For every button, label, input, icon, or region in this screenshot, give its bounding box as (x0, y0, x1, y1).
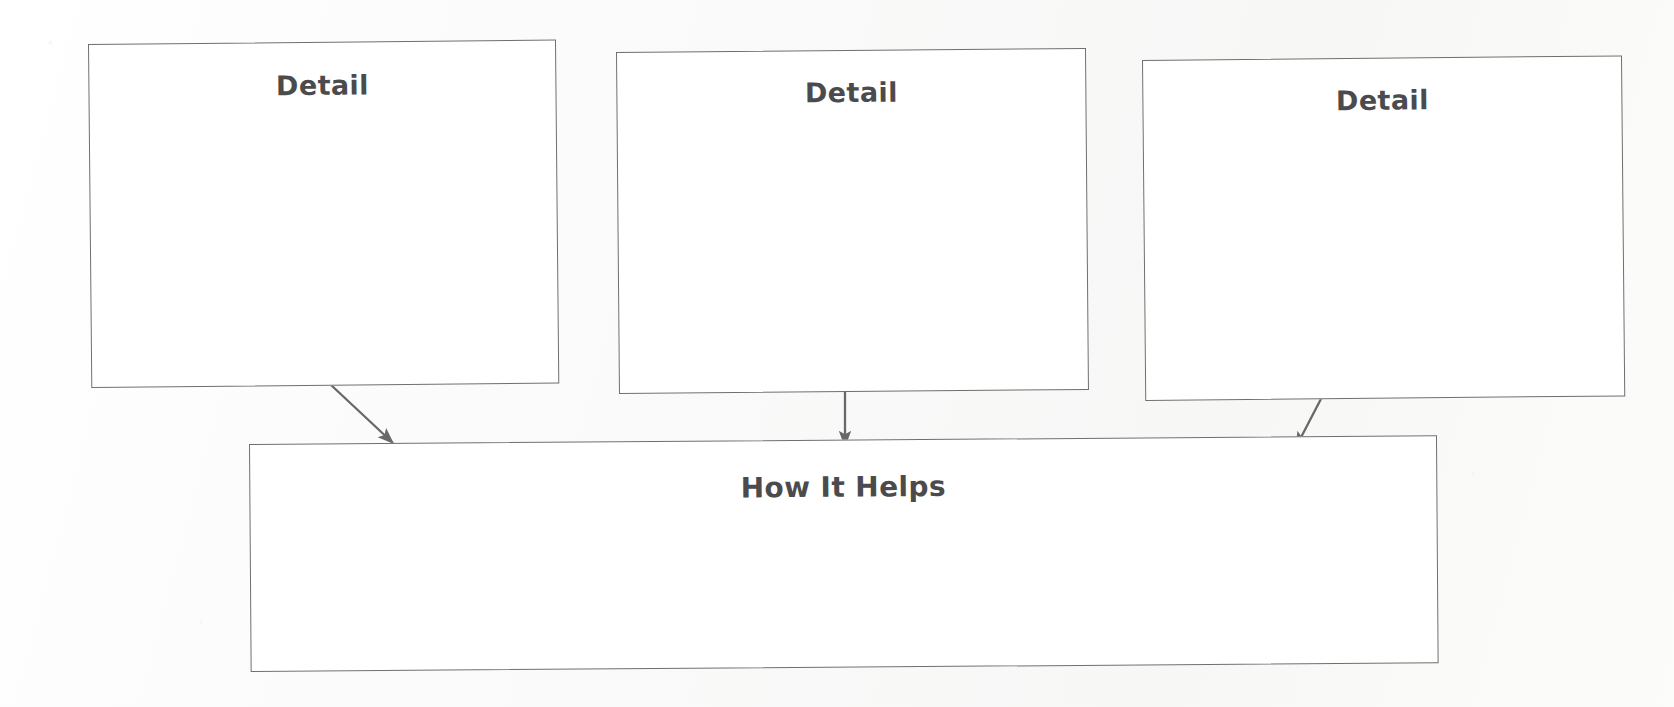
node-detail-1-title: Detail (89, 68, 555, 103)
node-detail-2-title: Detail (617, 75, 1085, 110)
node-detail-3-title: Detail (1143, 82, 1621, 118)
node-detail-1[interactable]: Detail (88, 40, 559, 388)
node-detail-2[interactable]: Detail (616, 48, 1089, 394)
node-how-it-helps[interactable]: How It Helps (249, 435, 1439, 672)
node-detail-3[interactable]: Detail (1142, 55, 1625, 401)
node-how-it-helps-title: How It Helps (250, 466, 1436, 508)
arrow-detail-1-to-how-it-helps (331, 385, 393, 443)
diagram-canvas: Detail Detail Detail How It Helps (0, 0, 1674, 707)
